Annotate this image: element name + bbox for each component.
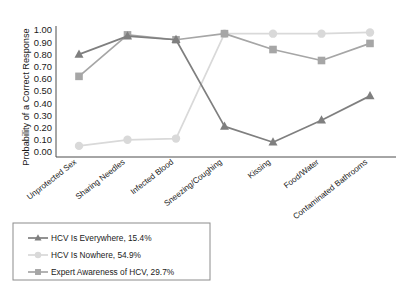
y-tick-label: 0.30 xyxy=(34,110,52,121)
y-tick-label: 0.40 xyxy=(34,98,52,109)
y-tick-label: 0.90 xyxy=(34,37,52,48)
legend-marker xyxy=(35,252,42,259)
data-point-marker xyxy=(123,136,131,144)
line-chart: Probability of a Correct Response 1.000.… xyxy=(0,0,404,289)
y-axis-title: Probability of a Correct Response xyxy=(21,28,31,165)
y-tick-label: 1.00 xyxy=(34,24,52,35)
legend-label: HCV Is Everywhere, 15.4% xyxy=(51,233,152,243)
chart-background xyxy=(0,0,404,289)
y-tick-label: 0.80 xyxy=(34,49,52,60)
data-point-marker xyxy=(269,46,277,54)
y-tick-label: 0.60 xyxy=(34,73,52,84)
data-point-marker xyxy=(172,134,180,142)
data-point-marker xyxy=(75,142,83,150)
data-point-marker xyxy=(75,73,83,81)
data-point-marker xyxy=(317,29,325,37)
y-axis-tick-labels: 1.000.900.800.700.600.500.400.300.200.10… xyxy=(34,24,52,157)
data-point-marker xyxy=(269,29,277,37)
y-tick-label: 0.00 xyxy=(34,146,52,157)
y-tick-label: 0.70 xyxy=(34,61,52,72)
y-tick-label: 0.20 xyxy=(34,122,52,133)
legend-label: Expert Awareness of HCV, 29.7% xyxy=(51,267,175,277)
data-point-marker xyxy=(366,40,374,48)
data-point-marker xyxy=(221,30,229,38)
legend-label: HCV Is Nowhere, 54.9% xyxy=(51,250,142,260)
legend-marker xyxy=(35,269,41,275)
y-tick-label: 0.50 xyxy=(34,85,52,96)
data-point-marker xyxy=(366,28,374,36)
data-point-marker xyxy=(318,57,326,65)
y-tick-label: 0.10 xyxy=(34,134,52,145)
